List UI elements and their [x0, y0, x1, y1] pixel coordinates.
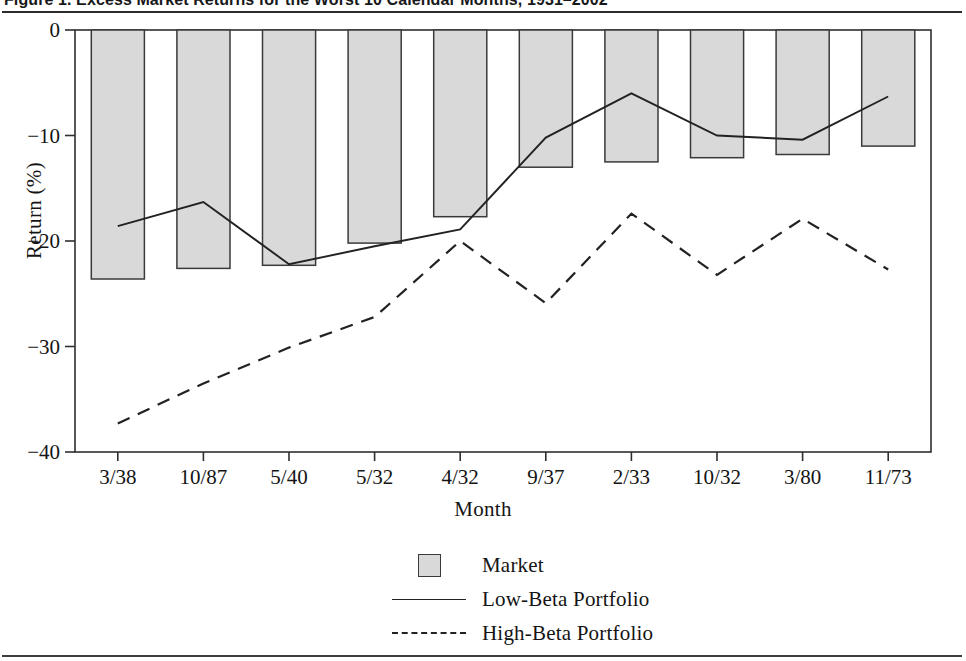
x-tick-label: 10/32 — [693, 465, 741, 489]
chart-canvas: 0−10−20−30−403/3810/875/405/324/329/372/… — [0, 14, 966, 494]
x-tick-label: 2/33 — [613, 465, 650, 489]
page-title: Figure 1. Excess Market Returns for the … — [4, 0, 608, 9]
x-tick-label: 4/32 — [442, 465, 479, 489]
legend-label-high-beta: High-Beta Portfolio — [472, 621, 653, 646]
high-beta-line — [118, 214, 888, 424]
legend-label-market: Market — [472, 553, 544, 578]
x-tick-label: 11/73 — [865, 465, 912, 489]
figure-title-band: Figure 1. Excess Market Returns for the … — [0, 0, 966, 11]
figure-container: Figure 1. Excess Market Returns for the … — [0, 0, 966, 661]
y-tick-label: −40 — [27, 440, 60, 464]
y-axis-label: Return (%) — [22, 141, 47, 281]
y-tick-label: −30 — [27, 335, 60, 359]
x-tick-label: 10/87 — [179, 465, 227, 489]
x-tick-label: 9/37 — [527, 465, 564, 489]
legend-item-high-beta: High-Beta Portfolio — [0, 616, 966, 650]
legend-solid-line-icon — [386, 599, 472, 600]
legend-dashed-line-icon — [386, 632, 472, 634]
y-tick-label: 0 — [50, 18, 61, 42]
legend-label-low-beta: Low-Beta Portfolio — [472, 587, 650, 612]
x-tick-label: 3/38 — [99, 465, 136, 489]
x-tick-label: 5/32 — [356, 465, 393, 489]
x-axis-label: Month — [0, 497, 966, 522]
x-tick-label: 5/40 — [270, 465, 307, 489]
x-tick-label: 3/80 — [784, 465, 821, 489]
legend-item-market: Market — [0, 548, 966, 582]
legend-item-low-beta: Low-Beta Portfolio — [0, 582, 966, 616]
page-bottom-divider — [2, 655, 962, 657]
legend-swatch-market-icon — [386, 554, 472, 577]
title-divider — [2, 11, 962, 13]
chart-legend: Market Low-Beta Portfolio High-Beta Port… — [0, 548, 966, 650]
